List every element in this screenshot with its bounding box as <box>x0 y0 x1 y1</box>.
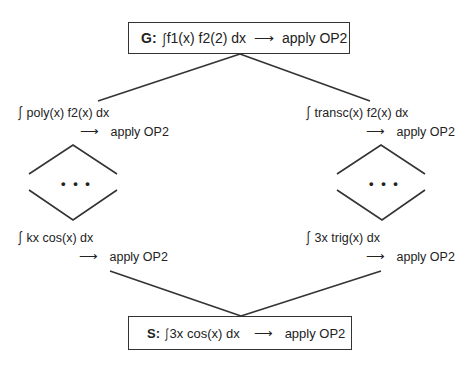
edge-goal-left <box>98 54 240 101</box>
right-top-action-label: apply OP2 <box>396 125 454 139</box>
arrow-right-icon: ⟶ <box>254 326 273 341</box>
solution-prefix: S: <box>147 326 160 341</box>
solution-expression: 3x cos(x) dx <box>170 326 240 341</box>
left-top-node: ∫ poly(x) f2(x) dx <box>18 103 109 120</box>
integral-icon: ∫ <box>19 228 22 245</box>
left-bottom-action: ⟶ apply OP2 <box>79 249 168 264</box>
arrow-right-icon: ⟶ <box>366 124 385 139</box>
goal-action: apply OP2 <box>282 30 347 46</box>
left-bottom-node: ∫ kx cos(x) dx <box>18 228 93 245</box>
edge-goal-right <box>240 54 370 101</box>
integral-icon: ∫ <box>307 103 310 120</box>
left-ellipsis: • • • <box>61 176 92 191</box>
arrow-right-icon: ⟶ <box>254 30 274 46</box>
right-bottom-action-label: apply OP2 <box>396 250 454 264</box>
right-bottom-node: ∫ 3x trig(x) dx <box>306 228 380 245</box>
arrow-right-icon: ⟶ <box>366 249 385 264</box>
left-bottom-expression: kx cos(x) dx <box>27 231 94 245</box>
right-bottom-action: ⟶ apply OP2 <box>366 249 455 264</box>
goal-prefix: G: <box>141 30 157 46</box>
solution-node: S: ∫ 3x cos(x) dx ⟶ apply OP2 <box>128 316 352 350</box>
goal-node: G: ∫ f1(x) f2(2) dx ⟶ apply OP2 <box>128 22 350 54</box>
right-ellipsis: • • • <box>369 176 400 191</box>
left-bottom-action-label: apply OP2 <box>109 250 167 264</box>
left-top-action: ⟶ apply OP2 <box>80 124 169 139</box>
arrow-right-icon: ⟶ <box>79 249 98 264</box>
integral-icon: ∫ <box>165 326 168 341</box>
right-diamond-bottom <box>337 190 425 220</box>
integral-icon: ∫ <box>162 30 165 47</box>
integral-icon: ∫ <box>19 103 22 120</box>
right-diamond-top <box>337 145 425 174</box>
arrow-right-icon: ⟶ <box>80 124 99 139</box>
left-top-expression: poly(x) f2(x) dx <box>27 106 110 120</box>
right-top-action: ⟶ apply OP2 <box>366 124 455 139</box>
right-top-node: ∫ transc(x) f2(x) dx <box>306 103 408 120</box>
integral-icon: ∫ <box>307 228 310 245</box>
solution-action: apply OP2 <box>285 326 346 341</box>
right-bottom-expression: 3x trig(x) dx <box>315 231 380 245</box>
right-top-expression: transc(x) f2(x) dx <box>315 106 409 120</box>
left-diamond-bottom <box>29 190 117 220</box>
edge-right-solution <box>241 271 381 316</box>
left-diamond-top <box>29 145 117 174</box>
edge-left-solution <box>110 271 241 316</box>
goal-expression: f1(x) f2(2) dx <box>167 30 246 46</box>
left-top-action-label: apply OP2 <box>110 125 168 139</box>
